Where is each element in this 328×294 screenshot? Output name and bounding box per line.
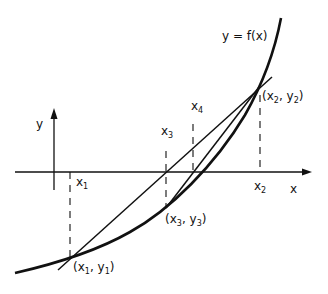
x2-tick-label: x2 xyxy=(254,179,266,195)
curve-label: y = f(x) xyxy=(222,29,267,43)
secant-line-x1-x2 xyxy=(58,77,272,270)
x-axis-arrow-icon xyxy=(302,169,312,176)
secant-line-x3-x2 xyxy=(166,87,259,208)
secant-method-diagram: y = f(x) y x x1 x2 x3 x4 (x1, y1) (x2, y… xyxy=(0,0,328,294)
x-axis-label: x xyxy=(290,182,297,196)
point-label-x2-y2: (x2, y2) xyxy=(262,89,303,105)
point-label-x3-y3: (x3, y3) xyxy=(165,212,206,228)
x1-tick-label: x1 xyxy=(76,175,88,191)
function-curve xyxy=(15,18,281,273)
y-axis-label: y xyxy=(36,117,43,131)
x3-tick-label: x3 xyxy=(161,124,173,140)
y-axis-arrow-icon xyxy=(51,108,58,119)
point-label-x1-y1: (x1, y1) xyxy=(73,260,114,276)
x4-tick-label: x4 xyxy=(191,99,203,115)
